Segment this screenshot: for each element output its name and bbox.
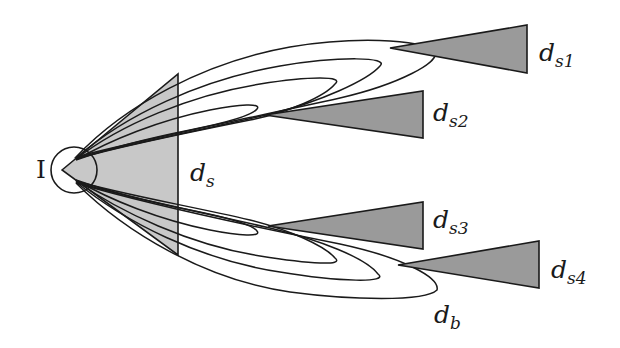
beam-diagram: I ds ds1 ds2 ds3 ds4 db (0, 0, 620, 348)
label-subscript: b (450, 313, 461, 333)
label-ds3: ds3 (433, 207, 469, 237)
label-ds1: ds1 (539, 40, 575, 70)
label-subscript: s1 (555, 51, 575, 71)
label-db: db (434, 302, 461, 332)
label-base: d (190, 158, 206, 187)
triangle-ds1 (390, 25, 527, 73)
label-subscript: s (206, 171, 215, 191)
triangle-ds (62, 74, 178, 255)
label-base: d (433, 205, 449, 234)
label-source-I: I (36, 157, 46, 182)
diagram-canvas (0, 0, 620, 348)
label-ds: ds (190, 160, 215, 190)
label-subscript: s3 (449, 218, 469, 238)
label-base: d (539, 38, 555, 67)
label-base: d (433, 98, 449, 127)
label-ds4: ds4 (551, 257, 587, 287)
triangle-ds3 (268, 202, 423, 249)
label-subscript: s4 (567, 268, 587, 288)
label-ds2: ds2 (433, 100, 469, 130)
label-text: I (36, 155, 46, 184)
label-base: d (551, 255, 567, 284)
label-subscript: s2 (449, 111, 469, 131)
triangle-ds2 (265, 91, 423, 138)
label-base: d (434, 300, 450, 329)
